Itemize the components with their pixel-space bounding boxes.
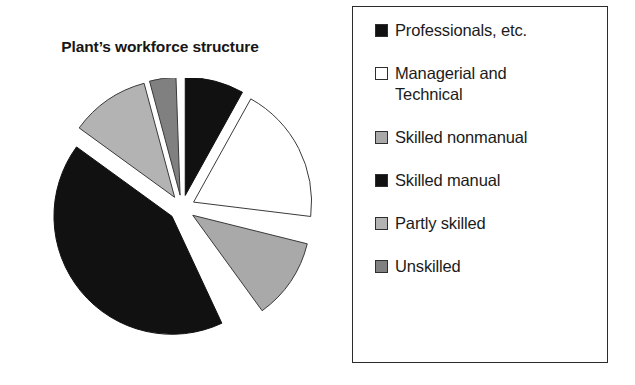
pie-slice[interactable] bbox=[193, 215, 307, 310]
legend-item[interactable]: Unskilled bbox=[375, 256, 599, 277]
pie-chart-svg bbox=[48, 78, 316, 338]
legend-item[interactable]: Managerial and Technical bbox=[375, 63, 599, 105]
pie-slice-group bbox=[54, 78, 312, 334]
legend-item-label: Partly skilled bbox=[395, 213, 486, 234]
legend-item-label: Skilled nonmanual bbox=[395, 127, 527, 148]
page-title: Plant’s workforce structure bbox=[0, 38, 320, 56]
pie-chart bbox=[48, 78, 316, 338]
legend-item[interactable]: Skilled manual bbox=[375, 170, 599, 191]
light-gray-swatch bbox=[375, 131, 388, 144]
legend-item[interactable]: Skilled nonmanual bbox=[375, 127, 599, 148]
legend-item-label: Skilled manual bbox=[395, 170, 500, 191]
legend-item-label: Unskilled bbox=[395, 256, 461, 277]
legend-list: Professionals, etc.Managerial and Techni… bbox=[375, 20, 599, 277]
black-swatch bbox=[375, 174, 388, 187]
light-gray-swatch bbox=[375, 217, 388, 230]
medium-gray-swatch bbox=[375, 260, 388, 273]
legend-item-label: Professionals, etc. bbox=[395, 20, 527, 41]
chart-panel: Plant’s workforce structure bbox=[0, 0, 340, 385]
legend-box: Professionals, etc.Managerial and Techni… bbox=[352, 6, 608, 363]
black-swatch bbox=[375, 24, 388, 37]
legend-item[interactable]: Professionals, etc. bbox=[375, 20, 599, 41]
legend-item-label: Managerial and Technical bbox=[395, 63, 507, 105]
white-swatch bbox=[375, 67, 388, 80]
legend-item[interactable]: Partly skilled bbox=[375, 213, 599, 234]
pie-chart-figure: Plant’s workforce structure Professional… bbox=[0, 0, 635, 385]
